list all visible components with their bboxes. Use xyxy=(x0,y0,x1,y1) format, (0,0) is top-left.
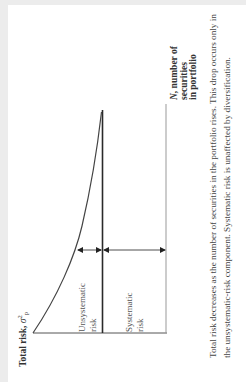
n-variable: N xyxy=(169,93,179,100)
y-axis-label: Total risk, σ2P xyxy=(14,312,32,367)
sigma-subscript: P xyxy=(23,312,30,316)
x-axis-label-text: , number of securities in portfolio xyxy=(169,46,198,100)
sigma-symbol: σ xyxy=(18,319,28,324)
sigma-superscript: 2 xyxy=(16,315,23,318)
systematic-risk-label: Systematic risk xyxy=(124,293,145,333)
figure-caption: Total risk decreases as the number of se… xyxy=(206,3,234,358)
unsystematic-risk-label: Unsystematic risk xyxy=(77,283,98,332)
x-axis-label: N, number of securities in portfolio xyxy=(170,46,199,100)
y-axis-label-text: Total risk, xyxy=(18,326,28,367)
